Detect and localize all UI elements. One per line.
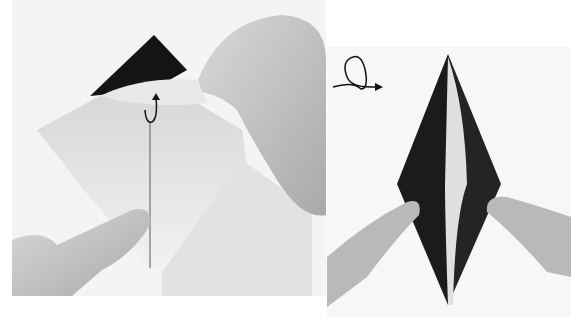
lift-fold-arrow-icon bbox=[140, 88, 164, 128]
turn-over-icon bbox=[331, 49, 391, 97]
right-finger bbox=[487, 197, 571, 277]
right-instruction-photo bbox=[327, 47, 571, 317]
left-hand bbox=[12, 209, 150, 296]
kite-left-dark bbox=[397, 54, 448, 305]
left-photo-illustration bbox=[12, 0, 326, 296]
left-finger bbox=[327, 201, 420, 307]
left-instruction-photo bbox=[12, 0, 326, 296]
